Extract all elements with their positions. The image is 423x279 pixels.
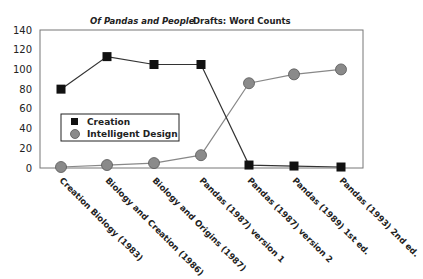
data-point-square-icon	[245, 161, 254, 170]
y-axis: 020406080100120140	[13, 25, 32, 174]
data-point-circle-icon	[196, 150, 207, 161]
x-tick-label: Pandas (1987) version 2	[246, 175, 335, 264]
data-point-square-icon	[337, 163, 346, 172]
plot-area-frame	[40, 30, 363, 168]
x-axis: Creation Biology (1983)Biology and Creat…	[58, 175, 422, 277]
y-tick-label: 40	[19, 123, 32, 134]
data-point-circle-icon	[56, 162, 67, 173]
data-point-circle-icon	[336, 64, 347, 75]
y-tick-label: 100	[13, 64, 32, 75]
y-tick-label: 60	[19, 103, 32, 114]
legend: Creation Intelligent Design	[61, 114, 179, 141]
chart: Of Pandas and People Drafts: Word Counts…	[0, 0, 423, 279]
legend-intelligent-design-circle-icon	[71, 130, 80, 139]
y-tick-label: 80	[19, 84, 32, 95]
data-point-square-icon	[290, 162, 299, 171]
data-point-square-icon	[103, 52, 112, 61]
series-layer	[56, 52, 347, 172]
chart-title-rest: Drafts: Word Counts	[193, 16, 291, 26]
x-tick-label: Pandas (1993) 2nd ed.	[338, 175, 422, 259]
y-tick-label: 0	[26, 163, 32, 174]
x-tick-label: Biology and Origins (1987)	[151, 175, 249, 273]
data-point-circle-icon	[289, 69, 300, 80]
y-tick-label: 140	[13, 25, 32, 36]
x-tick-label: Biology and Creation (1986)	[104, 175, 206, 277]
x-tick-label: Pandas (1987) version 1	[198, 175, 287, 264]
y-tick-label: 20	[19, 143, 32, 154]
legend-label-intelligent-design: Intelligent Design	[87, 129, 178, 139]
data-point-square-icon	[197, 60, 206, 69]
legend-creation-square-icon	[71, 118, 78, 125]
data-point-circle-icon	[102, 160, 113, 171]
data-point-circle-icon	[149, 158, 160, 169]
x-tick-label: Pandas (1989) 1st ed.	[291, 175, 372, 256]
y-tick-label: 120	[13, 44, 32, 55]
data-point-circle-icon	[244, 78, 255, 89]
data-point-square-icon	[57, 85, 66, 94]
x-tick-label: Creation Biology (1983)	[58, 175, 146, 263]
chart-title: Of Pandas and People Drafts: Word Counts	[90, 16, 291, 26]
chart-title-italic: Of Pandas and People	[90, 16, 195, 26]
data-point-square-icon	[150, 60, 159, 69]
legend-label-creation: Creation	[87, 117, 130, 127]
